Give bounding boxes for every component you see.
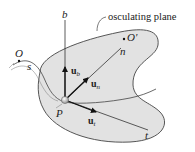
origin-label: O xyxy=(15,47,23,59)
path-coordinate-label: s xyxy=(27,60,31,72)
plane-label-leader xyxy=(97,17,106,31)
center-of-curvature-point xyxy=(123,38,125,40)
center-of-curvature-label: O' xyxy=(127,31,138,43)
binormal-axis-label: b xyxy=(62,8,68,20)
particle-point xyxy=(61,96,68,103)
osculating-plane-diagram: osculating plane O s b n t O' P ub un ut xyxy=(0,0,195,152)
osculating-plane-label: osculating plane xyxy=(108,11,177,22)
osculating-plane-shape xyxy=(38,30,164,142)
particle-label: P xyxy=(55,107,63,119)
origin-point xyxy=(18,60,20,62)
normal-axis-label: n xyxy=(120,45,126,57)
